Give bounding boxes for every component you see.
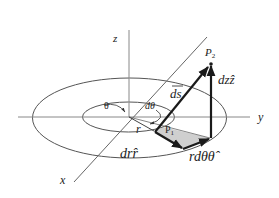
p2-label: P2 — [204, 46, 216, 60]
dz-z-hat-label: dzẑ — [218, 72, 236, 87]
ds-label: ds — [170, 86, 182, 101]
x-axis — [74, 37, 207, 182]
theta-label: θ — [104, 100, 109, 111]
point-p2 — [209, 62, 213, 66]
r-label: r — [136, 122, 141, 136]
diagram-canvas: z y x θ dθ r P1 P2 ds dzẑ drr̂ rdθθ̂ — [0, 0, 279, 198]
z-axis-label: z — [112, 32, 118, 44]
dr-r-hat-label: drr̂ — [120, 146, 138, 161]
cylindrical-coordinates-diagram: z y x θ dθ r P1 P2 ds dzẑ drr̂ rdθθ̂ — [0, 0, 279, 198]
r-dtheta-theta-hat-label: rdθθ̂ — [189, 149, 221, 164]
y-axis-label: y — [257, 110, 264, 124]
d-theta-label: dθ — [145, 100, 155, 111]
x-axis-label: x — [59, 173, 66, 187]
